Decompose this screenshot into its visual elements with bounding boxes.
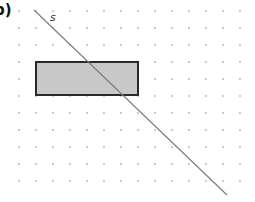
grid-dot — [18, 163, 20, 165]
grid-dot — [205, 163, 207, 165]
grid-dot — [205, 146, 207, 148]
part-label: b) — [0, 3, 12, 18]
grid-dot — [222, 163, 224, 165]
grid-dot — [188, 95, 190, 97]
grid-dot — [103, 180, 105, 182]
grid-dot — [35, 27, 37, 29]
grid-dot — [103, 44, 105, 46]
grid-dot — [171, 78, 173, 80]
grid-dot — [188, 10, 190, 12]
grid-dot — [222, 61, 224, 63]
grid-dot — [239, 146, 241, 148]
grid-dot — [171, 129, 173, 131]
grid-dot — [18, 61, 20, 63]
grid-dot — [18, 112, 20, 114]
grid-dot — [239, 163, 241, 165]
grid-dot — [205, 10, 207, 12]
grid-dot — [69, 163, 71, 165]
grid-dot — [188, 61, 190, 63]
grid-dot — [18, 180, 20, 182]
grid-dot — [69, 180, 71, 182]
grid-dot — [103, 163, 105, 165]
grid-dot — [120, 180, 122, 182]
grid-dot — [86, 163, 88, 165]
grid-dot — [69, 27, 71, 29]
grid-dot — [171, 112, 173, 114]
grid-dot — [35, 146, 37, 148]
grid-dot — [52, 44, 54, 46]
grid-dot — [18, 27, 20, 29]
grid-dot — [103, 27, 105, 29]
grid-dot — [188, 112, 190, 114]
line-label-s: s — [50, 12, 56, 23]
grid-dot — [18, 95, 20, 97]
grid-dot — [239, 95, 241, 97]
grid-dot — [86, 146, 88, 148]
grid-dot — [222, 95, 224, 97]
grid-dot — [120, 163, 122, 165]
grid-dot — [239, 44, 241, 46]
grid-dot — [171, 146, 173, 148]
grid-dot — [239, 10, 241, 12]
grid-dot — [154, 163, 156, 165]
grid-dot — [222, 112, 224, 114]
grid-dot — [69, 129, 71, 131]
grid-dot — [86, 44, 88, 46]
grid-dot — [154, 10, 156, 12]
grid-dot — [137, 112, 139, 114]
grid-dot — [86, 112, 88, 114]
grid-dot — [239, 27, 241, 29]
grid-dot — [52, 112, 54, 114]
grid-dot — [188, 44, 190, 46]
grid-dot — [222, 180, 224, 182]
grid-dot — [205, 78, 207, 80]
grid-dot — [18, 146, 20, 148]
grid-dot — [120, 112, 122, 114]
grid-dot — [103, 10, 105, 12]
grid-dot — [222, 78, 224, 80]
grid-dot — [239, 180, 241, 182]
grid-dot — [103, 146, 105, 148]
grid-dot — [188, 129, 190, 131]
grid-dot — [86, 180, 88, 182]
grid-dot — [222, 44, 224, 46]
grid-dot — [137, 180, 139, 182]
grid-dot — [103, 112, 105, 114]
grid-dot — [171, 61, 173, 63]
grid-dot — [171, 163, 173, 165]
grid-dot — [205, 180, 207, 182]
grid-dot — [188, 180, 190, 182]
grid-dot — [137, 10, 139, 12]
grid-dot — [137, 146, 139, 148]
grid-dot — [171, 95, 173, 97]
grid-dot — [103, 129, 105, 131]
grid-dot — [154, 61, 156, 63]
line-s — [34, 10, 227, 195]
grid-dot — [171, 180, 173, 182]
grid-dot — [18, 10, 20, 12]
grid-dot — [188, 27, 190, 29]
grid-dot — [205, 129, 207, 131]
grid-dot — [239, 112, 241, 114]
grid-dot — [35, 44, 37, 46]
grid-dot — [171, 27, 173, 29]
grid-dot — [239, 78, 241, 80]
grid-dot — [239, 61, 241, 63]
grid-dot — [154, 146, 156, 148]
grid-dot — [69, 146, 71, 148]
grid-dot — [86, 27, 88, 29]
grid-dot — [171, 10, 173, 12]
grid-dot — [120, 129, 122, 131]
grid-dot — [120, 44, 122, 46]
grid-dot — [137, 163, 139, 165]
grid-dot — [222, 10, 224, 12]
figure-svg — [0, 0, 255, 202]
grid-dot — [137, 27, 139, 29]
grid-dot — [239, 129, 241, 131]
grid-dot — [205, 27, 207, 29]
grid-dot — [205, 95, 207, 97]
grid-dot — [18, 44, 20, 46]
grid-dot — [35, 180, 37, 182]
grid-dot — [52, 163, 54, 165]
grid-dot — [154, 78, 156, 80]
